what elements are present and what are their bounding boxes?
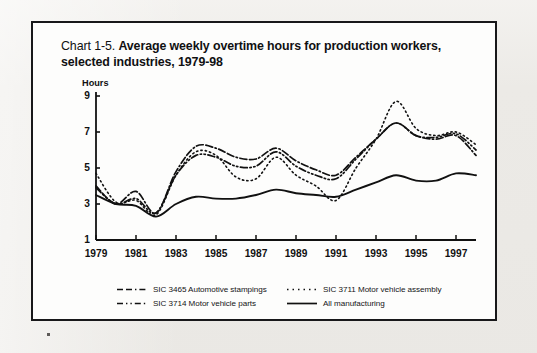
svg-text:1983: 1983 <box>165 248 188 259</box>
legend-item-sic-3714: SIC 3714 Motor vehicle parts <box>117 299 287 308</box>
svg-text:5: 5 <box>84 162 90 173</box>
svg-text:9: 9 <box>84 90 90 101</box>
legend-swatch-dotted <box>287 285 317 294</box>
legend-label-sic-3714: SIC 3714 Motor vehicle parts <box>153 299 256 308</box>
scan-artifact-speck <box>47 333 50 336</box>
legend-swatch-dash-dot-dot <box>117 299 147 308</box>
legend-label-all-manufacturing: All manufacturing <box>323 299 385 308</box>
chart-title-text: Average weekly overtime hours for produc… <box>61 39 441 69</box>
legend-item-sic-3711: SIC 3711 Motor vehicle assembly <box>287 285 463 294</box>
chart-title: Chart 1-5. Average weekly overtime hours… <box>61 39 473 70</box>
legend-row: SIC 3714 Motor vehicle parts All manufac… <box>117 299 467 308</box>
svg-text:1985: 1985 <box>205 248 228 259</box>
legend-swatch-solid <box>287 299 317 308</box>
svg-text:7: 7 <box>84 126 90 137</box>
chart-legend: SIC 3465 Automotive stampings SIC 3711 M… <box>117 285 467 313</box>
legend-label-sic-3711: SIC 3711 Motor vehicle assembly <box>323 285 441 294</box>
legend-item-sic-3465: SIC 3465 Automotive stampings <box>117 285 287 294</box>
svg-text:1979: 1979 <box>85 248 108 259</box>
legend-row: SIC 3465 Automotive stampings SIC 3711 M… <box>117 285 467 294</box>
plot-area: Hours 1357919791981198319851987198919911… <box>60 78 484 283</box>
svg-text:1993: 1993 <box>365 248 388 259</box>
svg-text:1995: 1995 <box>405 248 428 259</box>
y-axis-unit-label: Hours <box>82 78 109 88</box>
legend-item-all-manufacturing: All manufacturing <box>287 299 463 308</box>
chart-title-number: Chart 1-5. <box>61 39 115 53</box>
svg-text:1987: 1987 <box>245 248 268 259</box>
svg-text:1981: 1981 <box>125 248 148 259</box>
svg-text:1991: 1991 <box>325 248 348 259</box>
legend-label-sic-3465: SIC 3465 Automotive stampings <box>153 285 267 294</box>
svg-text:1989: 1989 <box>285 248 308 259</box>
series-line <box>96 123 476 214</box>
line-chart-svg: 1357919791981198319851987198919911993199… <box>60 88 484 283</box>
figure-frame: Chart 1-5. Average weekly overtime hours… <box>31 21 497 321</box>
legend-swatch-dash-dash-dot <box>117 285 147 294</box>
series-line <box>96 173 476 216</box>
svg-text:3: 3 <box>84 198 90 209</box>
svg-text:1997: 1997 <box>445 248 468 259</box>
svg-text:1: 1 <box>84 234 90 245</box>
